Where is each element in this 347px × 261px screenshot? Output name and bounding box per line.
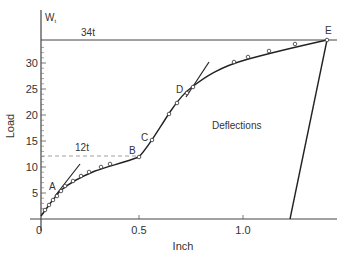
y-tick-label: 25 bbox=[26, 83, 38, 95]
tangent-line-d bbox=[186, 62, 209, 97]
yield-load-label: 12t bbox=[75, 142, 89, 153]
y-tick-label: 15 bbox=[26, 135, 38, 147]
y-tick-label: 20 bbox=[26, 109, 38, 121]
y-axis-label: Load bbox=[4, 114, 16, 138]
deflections-label: Deflections bbox=[212, 120, 261, 131]
y-tick-label: 30 bbox=[26, 57, 38, 69]
y-axis-top-label: Wt bbox=[45, 12, 56, 24]
load-deflection-curve bbox=[41, 40, 327, 216]
y-tick-label: 10 bbox=[26, 161, 38, 173]
x-tick-label: 0.5 bbox=[131, 224, 146, 236]
x-tick-label: 0 bbox=[36, 224, 42, 236]
y-axis-major-ticks bbox=[41, 63, 46, 193]
x-axis-label: Inch bbox=[173, 240, 194, 252]
point-label-a: A bbox=[49, 181, 56, 192]
max-load-label: 34t bbox=[81, 27, 95, 38]
data-markers bbox=[43, 38, 329, 212]
unloading-line bbox=[290, 40, 327, 219]
point-label-b: B bbox=[129, 145, 136, 156]
point-label-e: E bbox=[325, 25, 332, 36]
x-tick-label: 1.0 bbox=[235, 224, 250, 236]
point-label-d: D bbox=[176, 84, 183, 95]
point-label-c: C bbox=[141, 132, 148, 143]
load-deflection-chart: 5 10 15 20 25 30 0 0.5 1.0 Inch Load Wt … bbox=[0, 0, 347, 261]
y-tick-label: 5 bbox=[32, 187, 38, 199]
